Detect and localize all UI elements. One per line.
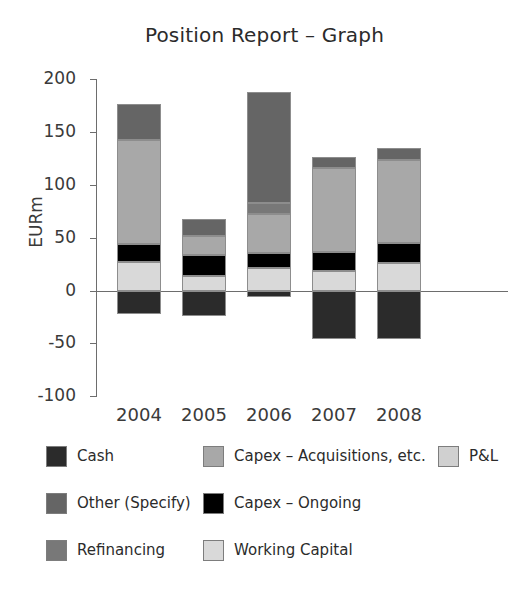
bar-segment [377,291,421,339]
bar-segment [182,255,226,276]
y-tick-50 [90,238,97,239]
legend-item-working-capital: Working Capital [203,540,353,561]
bar-segment [247,214,291,253]
legend-swatch-other [46,493,67,514]
bar-segment [312,157,356,168]
position-report-chart: Position Report – Graph 200 150 100 50 0… [0,0,529,608]
bar-segment [247,92,291,203]
legend-label-other: Other (Specify) [77,496,191,511]
bar-segment [377,160,421,244]
bar-segment [117,262,161,291]
legend-swatch-cash [46,446,67,467]
bar-segment [117,291,161,314]
chart-legend: Cash Capex – Acquisitions, etc. P&L Othe… [0,438,529,608]
legend-item-capex-acquisitions: Capex – Acquisitions, etc. [203,446,426,467]
bar-segment [247,203,291,214]
bar-segment [377,148,421,160]
legend-label-capex-acquisitions: Capex – Acquisitions, etc. [234,449,426,464]
y-tick-200 [90,79,97,80]
legend-swatch-pl [438,446,459,467]
legend-item-other: Other (Specify) [46,493,191,514]
legend-swatch-capex-ongoing [203,493,224,514]
y-tick-label-200: 200 [22,70,76,87]
legend-item-pl: P&L [438,446,498,467]
legend-item-cash: Cash [46,446,114,467]
y-tick-n50 [90,343,97,344]
legend-label-pl: P&L [469,449,498,464]
bar-segment [182,291,226,316]
y-tick-label-n50: -50 [22,334,76,351]
y-tick-label-n100: -100 [22,387,76,404]
bar-2006 [247,0,291,420]
bar-2008 [377,0,421,420]
plot-area: 200 150 100 50 0 -50 -100 EURm 2004 2005… [0,0,529,420]
bar-2004 [117,0,161,420]
y-tick-label-0: 0 [22,282,76,299]
bar-2005 [182,0,226,420]
legend-label-cash: Cash [77,449,114,464]
bar-segment [312,252,356,271]
legend-item-refinancing: Refinancing [46,540,165,561]
y-tick-150 [90,132,97,133]
legend-swatch-refinancing [46,540,67,561]
bar-segment [247,291,291,297]
bar-segment [182,276,226,291]
legend-label-refinancing: Refinancing [77,543,165,558]
bar-segment [182,219,226,236]
legend-label-capex-ongoing: Capex – Ongoing [234,496,361,511]
bar-segment [117,104,161,140]
bar-segment [117,244,161,262]
bar-segment [312,291,356,339]
y-tick-100 [90,185,97,186]
legend-label-working-capital: Working Capital [234,543,353,558]
bar-segment [312,271,356,291]
bar-segment [247,253,291,268]
bar-segment [117,140,161,244]
legend-item-capex-ongoing: Capex – Ongoing [203,493,361,514]
y-tick-label-150: 150 [22,123,76,140]
legend-swatch-working-capital [203,540,224,561]
bar-segment [312,168,356,252]
bar-segment [182,236,226,255]
bar-segment [377,263,421,291]
bar-segment [377,243,421,263]
legend-swatch-capex-acquisitions [203,446,224,467]
bar-segment [247,268,291,291]
bar-2007 [312,0,356,420]
y-axis-label: EURm [26,177,46,267]
y-tick-n100 [90,396,97,397]
